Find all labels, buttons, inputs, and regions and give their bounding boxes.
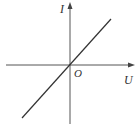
iu-graph: I O U bbox=[0, 0, 140, 127]
x-axis-label: U bbox=[124, 73, 134, 87]
origin-label: O bbox=[74, 67, 82, 79]
y-axis-arrow-icon bbox=[68, 2, 73, 9]
x-axis-arrow-icon bbox=[128, 63, 135, 68]
y-axis-label: I bbox=[59, 2, 65, 16]
characteristic-line bbox=[22, 19, 111, 118]
